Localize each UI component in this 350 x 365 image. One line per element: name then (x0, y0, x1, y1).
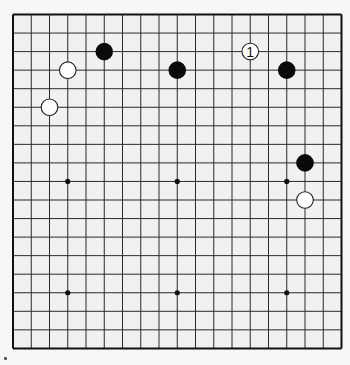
stone-disc (59, 62, 76, 79)
white-stone[interactable] (41, 99, 58, 116)
star-point (284, 290, 289, 295)
stone-disc (41, 99, 58, 116)
star-point (175, 179, 180, 184)
black-stone[interactable] (278, 61, 296, 79)
black-stone[interactable] (296, 154, 314, 172)
white-stone[interactable] (297, 192, 314, 209)
star-point (284, 179, 289, 184)
move-number-label: 1 (246, 44, 254, 60)
black-stone[interactable] (168, 61, 186, 79)
stone-disc (297, 192, 314, 209)
stone-disc (168, 61, 186, 79)
star-point (65, 290, 70, 295)
scan-artifact (4, 357, 7, 360)
go-board: 1 (0, 0, 350, 365)
white-stone[interactable]: 1 (242, 43, 259, 60)
stone-disc (278, 61, 296, 79)
white-stone[interactable] (59, 62, 76, 79)
star-point (65, 179, 70, 184)
stone-disc (95, 43, 113, 61)
star-point (175, 290, 180, 295)
stone-disc (296, 154, 314, 172)
black-stone[interactable] (95, 43, 113, 61)
